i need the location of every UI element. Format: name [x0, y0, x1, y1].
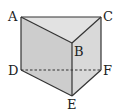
- label-F: F: [103, 63, 112, 78]
- label-C: C: [103, 9, 113, 24]
- prism-diagram: A C B D F E: [0, 0, 117, 112]
- label-A: A: [7, 9, 18, 24]
- label-E: E: [67, 97, 77, 112]
- label-D: D: [8, 63, 18, 78]
- label-B: B: [74, 44, 84, 59]
